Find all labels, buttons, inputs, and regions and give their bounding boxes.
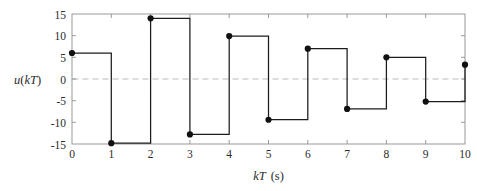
x-axis-title: kT(s) xyxy=(253,169,284,183)
x-tick-label: 3 xyxy=(187,148,193,160)
sample-point-marker xyxy=(265,117,271,123)
signal-staircase-path xyxy=(72,18,465,143)
x-tick-label: 4 xyxy=(226,148,232,160)
x-axis-title-var: kT xyxy=(253,169,267,183)
y-tick-labels: 15 10 5 0 -5 -10 -15 xyxy=(51,9,67,151)
x-tick-label: 6 xyxy=(305,148,311,160)
sample-point-marker xyxy=(423,98,429,104)
y-tick-label: 10 xyxy=(55,30,67,42)
y-tick-label: 15 xyxy=(55,9,67,21)
x-tick-label: 7 xyxy=(344,148,350,160)
sample-point-marker xyxy=(462,62,468,68)
x-tick-label: 8 xyxy=(384,148,390,160)
y-tick-label: -10 xyxy=(51,117,67,129)
y-tick-label: 0 xyxy=(60,74,66,86)
sample-point-marker xyxy=(148,15,154,21)
sample-point-marker xyxy=(226,33,232,39)
x-tick-label: 10 xyxy=(459,148,471,160)
x-tick-label: 9 xyxy=(423,148,429,160)
sample-point-marker xyxy=(108,140,114,146)
chart-figure: 15 10 5 0 -5 -10 -15 0 1 2 3 4 5 6 7 8 9… xyxy=(0,0,477,191)
y-tick-label: -5 xyxy=(56,95,66,107)
y-axis-title: u(kT) xyxy=(14,73,41,87)
y-tick-label: 5 xyxy=(60,52,66,64)
x-axis-title-unit: (s) xyxy=(271,169,284,183)
staircase-plot: 15 10 5 0 -5 -10 -15 0 1 2 3 4 5 6 7 8 9… xyxy=(0,0,477,191)
x-tick-label: 1 xyxy=(108,148,114,160)
sample-point-marker xyxy=(344,106,350,112)
x-tick-label: 2 xyxy=(148,148,154,160)
y-tick-label: -15 xyxy=(51,139,67,151)
sample-point-marker xyxy=(383,54,389,60)
x-tick-label: 5 xyxy=(266,148,272,160)
y-axis-title-close: ) xyxy=(37,73,41,87)
sample-point-marker xyxy=(69,50,75,56)
sample-point-marker xyxy=(305,46,311,52)
x-tick-label: 0 xyxy=(69,148,75,160)
sample-point-marker xyxy=(187,131,193,137)
x-tick-labels: 0 1 2 3 4 5 6 7 8 9 10 xyxy=(69,148,471,160)
